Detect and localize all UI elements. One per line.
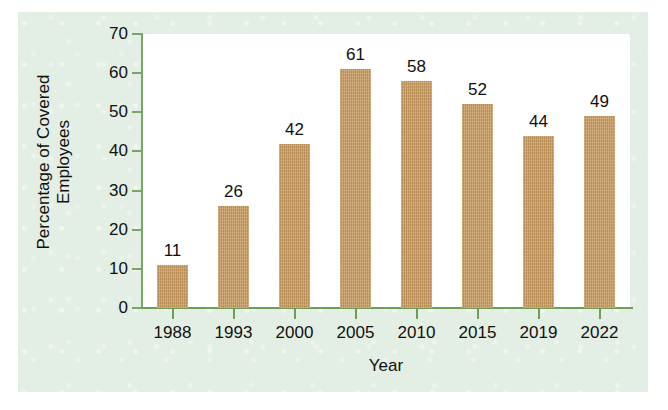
y-axis-tick-label-wrap: 50	[86, 103, 128, 120]
x-axis-tick-label: 1993	[202, 324, 266, 341]
y-axis-tick-label: 50	[92, 103, 128, 120]
bar	[218, 206, 249, 308]
bar-value-label: 61	[324, 46, 388, 63]
x-axis-tick	[416, 309, 418, 319]
bar	[279, 144, 310, 308]
bar-value-label: 42	[263, 121, 327, 138]
x-axis-tick-label: 2015	[446, 324, 510, 341]
y-axis-tick	[132, 111, 141, 113]
y-axis-title: Percentage of Covered Employees	[34, 42, 74, 282]
y-axis-tick-label: 10	[92, 260, 128, 277]
y-axis-tick-label: 40	[92, 142, 128, 159]
bar-chart-figure: 010203040506070 1126426158524449 1988199…	[0, 0, 668, 410]
x-axis-tick-label: 2022	[568, 324, 632, 341]
x-axis-tick	[233, 309, 235, 319]
x-axis-title: Year	[142, 356, 630, 376]
x-axis-tick	[355, 309, 357, 319]
y-axis-tick	[132, 268, 141, 270]
y-axis-tick	[132, 72, 141, 74]
y-axis-line	[141, 33, 143, 309]
y-axis-tick-label: 60	[92, 64, 128, 81]
y-axis-tick-label-wrap: 30	[86, 182, 128, 199]
bar-value-label: 58	[385, 58, 449, 75]
x-axis-tick-label: 2019	[507, 324, 571, 341]
bar	[462, 104, 493, 308]
bar	[523, 136, 554, 308]
y-axis-title-line-2: Employees	[54, 42, 74, 282]
x-axis-tick-label: 1988	[141, 324, 205, 341]
x-axis-tick-label: 2000	[263, 324, 327, 341]
x-axis-tick-label: 2005	[324, 324, 388, 341]
y-axis-tick	[132, 150, 141, 152]
y-axis-tick-label-wrap: 70	[86, 25, 128, 42]
bar	[340, 69, 371, 308]
y-axis-title-line-1: Percentage of Covered	[34, 42, 54, 282]
plot-area	[142, 34, 630, 308]
bar-value-label: 44	[507, 113, 571, 130]
y-axis-tick-label-wrap: 60	[86, 64, 128, 81]
y-axis-tick-label-wrap: 40	[86, 142, 128, 159]
x-axis-line	[141, 307, 633, 309]
y-axis-tick-label-wrap: 0	[86, 299, 128, 316]
x-axis-tick	[599, 309, 601, 319]
bar-value-label: 11	[141, 242, 205, 259]
bar	[401, 81, 432, 308]
bar	[157, 265, 188, 308]
x-axis-tick	[294, 309, 296, 319]
bar-value-label: 26	[202, 183, 266, 200]
y-axis-tick-label: 70	[92, 25, 128, 42]
y-axis-tick	[132, 33, 141, 35]
x-axis-tick	[477, 309, 479, 319]
bar	[584, 116, 615, 308]
y-axis-tick-label: 20	[92, 221, 128, 238]
x-axis-tick-label: 2010	[385, 324, 449, 341]
y-axis-tick	[132, 229, 141, 231]
y-axis-tick-label-wrap: 10	[86, 260, 128, 277]
y-axis-tick-label-wrap: 20	[86, 221, 128, 238]
y-axis-tick-label: 0	[92, 299, 128, 316]
bar-value-label: 52	[446, 81, 510, 98]
y-axis-tick-label: 30	[92, 182, 128, 199]
x-axis-tick	[538, 309, 540, 319]
x-axis-tick	[172, 309, 174, 319]
y-axis-tick	[132, 190, 141, 192]
bar-value-label: 49	[568, 93, 632, 110]
y-axis-tick	[132, 307, 141, 309]
